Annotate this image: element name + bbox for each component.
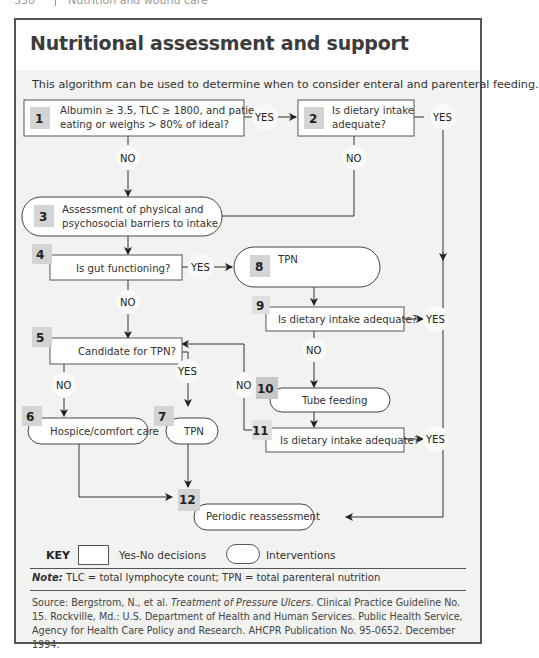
note: Note: TLC = total lymphocyte count; TPN … [32,572,380,583]
svg-text:9: 9 [256,299,264,313]
node-2: 2 Is dietary intake adequate? [298,100,414,136]
svg-text:5: 5 [36,331,44,345]
flowchart: 1 Albumin ≥ 3.5, TLC ≥ 1800, and patient… [16,20,480,540]
svg-text:4: 4 [36,248,44,262]
svg-text:adequate?: adequate? [332,119,386,130]
svg-text:7: 7 [158,410,166,424]
source-citation: Source: Bergstrom, N., et al. Treatment … [32,596,472,652]
node-11: 11 Is dietary intake adequate? [252,420,419,452]
node-10: 10 Tube feeding [256,377,390,412]
svg-text:YES: YES [425,314,445,325]
svg-text:YES: YES [190,262,210,273]
svg-text:Periodic reassessment: Periodic reassessment [206,511,320,522]
svg-text:Albumin ≥ 3.5, TLC ≥ 1800, and: Albumin ≥ 3.5, TLC ≥ 1800, and patient [60,105,265,116]
svg-text:12: 12 [179,493,196,507]
svg-text:Is dietary intake: Is dietary intake [332,105,414,116]
node-12: 12 Periodic reassessment [178,489,320,530]
running-head-divider [55,0,56,6]
svg-text:Assessment of physical and: Assessment of physical and [62,204,204,215]
svg-text:YES: YES [432,112,452,123]
note-text: TLC = total lymphocyte count; TPN = tota… [63,572,380,583]
figure-panel: Nutritional assessment and support This … [14,18,482,644]
svg-text:NO: NO [306,345,321,356]
legend-intervention-label: Interventions [266,549,336,561]
node-1: 1 Albumin ≥ 3.5, TLC ≥ 1800, and patient… [24,100,265,136]
node-9: 9 Is dietary intake adequate? [252,296,417,331]
svg-text:Tube feeding: Tube feeding [301,395,367,406]
svg-text:NO: NO [120,153,135,164]
svg-text:NO: NO [56,380,71,391]
svg-text:6: 6 [26,410,34,424]
svg-text:YES: YES [425,434,445,445]
svg-text:Is dietary intake adequate?: Is dietary intake adequate? [278,314,417,325]
svg-text:TPN: TPN [277,254,298,265]
divider [30,590,466,591]
svg-text:Hospice/comfort care: Hospice/comfort care [50,426,159,437]
svg-text:11: 11 [252,424,269,438]
legend-title: KEY [46,549,70,562]
node-8: 8 TPN [234,247,380,287]
source-title: Treatment of Pressure Ulcers [171,597,310,608]
divider [30,568,466,569]
node-3: 3 Assessment of physical and psychosocia… [22,197,222,236]
running-head: 330Nutrition and wound care [14,0,208,7]
svg-text:YES: YES [177,366,197,377]
svg-text:Is gut functioning?: Is gut functioning? [76,263,170,274]
svg-text:10: 10 [257,382,274,396]
legend-decision-label: Yes-No decisions [119,549,206,561]
svg-text:NO: NO [346,153,361,164]
note-prefix: Note: [32,572,63,583]
legend-decision-swatch [78,545,109,565]
source-prefix: Source: Bergstrom, N., et al. [32,597,171,608]
svg-text:TPN: TPN [183,426,204,437]
svg-text:YES: YES [254,112,274,123]
chapter-title: Nutrition and wound care [68,0,208,7]
svg-text:8: 8 [255,260,263,274]
node-6: 6 Hospice/comfort care [22,406,159,444]
svg-text:Is dietary intake adequate?: Is dietary intake adequate? [280,435,419,446]
page-number: 330 [14,0,35,7]
svg-text:psychosocial barriers to intak: psychosocial barriers to intake [62,218,218,229]
legend-intervention-swatch [226,544,260,564]
node-5: 5 Candidate for TPN? [32,327,182,364]
svg-text:eating or weighs > 80% of idea: eating or weighs > 80% of ideal? [60,119,229,130]
node-4: 4 Is gut functioning? [32,244,182,280]
svg-text:3: 3 [39,210,47,224]
svg-text:2: 2 [309,112,317,126]
svg-text:NO: NO [120,297,135,308]
node-7: 7 TPN [154,406,218,444]
svg-text:Candidate for TPN?: Candidate for TPN? [78,346,176,357]
svg-text:NO: NO [236,380,251,391]
svg-text:1: 1 [35,112,43,126]
